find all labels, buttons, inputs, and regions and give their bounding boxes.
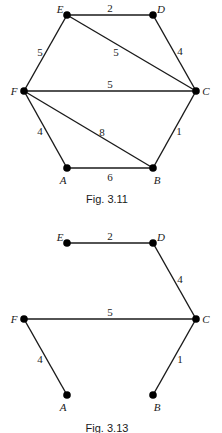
weight-e-d: 2 — [107, 2, 113, 14]
node-d — [149, 239, 157, 247]
label-b: B — [154, 401, 161, 413]
edge-f-a — [24, 319, 67, 395]
weight-e-f: 5 — [37, 46, 43, 58]
weight-b-c: 1 — [176, 125, 182, 137]
label-a: A — [59, 174, 67, 186]
figure-3-13: 2 4 5 4 1 E D F C A B Fig. 3.13 — [10, 230, 211, 433]
label-c: C — [202, 313, 210, 325]
label-a: A — [59, 401, 67, 413]
label-f: F — [10, 85, 18, 97]
edge-b-c — [153, 91, 196, 168]
edge-b-c — [153, 319, 196, 395]
node-e — [63, 11, 71, 19]
caption-fig-3-13: Fig. 3.13 — [86, 422, 129, 433]
weight-a-b: 6 — [107, 171, 113, 183]
weight-f-c: 5 — [107, 78, 113, 90]
node-a — [63, 391, 71, 399]
weight-e-d: 2 — [107, 230, 113, 242]
weight-d-c: 4 — [177, 45, 183, 57]
label-f: F — [10, 313, 18, 325]
graph-figures: 2 4 5 5 5 8 4 6 1 E D F C A B Fig. 3.11 … — [0, 0, 222, 433]
label-d: D — [156, 3, 165, 15]
node-f — [20, 87, 28, 95]
edge-d-c — [153, 15, 196, 91]
node-b — [149, 164, 157, 172]
edge-f-a — [24, 91, 67, 168]
node-c — [192, 315, 200, 323]
node-e — [63, 239, 71, 247]
label-c: C — [202, 85, 210, 97]
weight-f-a: 4 — [37, 353, 43, 365]
edge-f-b — [24, 91, 153, 168]
label-d: D — [156, 231, 165, 243]
caption-fig-3-11: Fig. 3.11 — [86, 193, 128, 205]
weight-f-c: 5 — [107, 306, 113, 318]
node-c — [192, 87, 200, 95]
node-d — [149, 11, 157, 19]
weight-f-a: 4 — [37, 125, 43, 137]
edge-e-f — [24, 15, 67, 91]
label-e: E — [56, 231, 64, 243]
weight-b-c: 1 — [177, 353, 183, 365]
node-f — [20, 315, 28, 323]
weight-e-c: 5 — [113, 46, 119, 58]
label-b: B — [154, 174, 161, 186]
edge-d-c — [153, 243, 196, 319]
node-b — [149, 391, 157, 399]
weight-f-b: 8 — [99, 126, 105, 138]
weight-d-c: 4 — [177, 273, 183, 285]
label-e: E — [56, 3, 64, 15]
figure-3-11: 2 4 5 5 5 8 4 6 1 E D F C A B Fig. 3.11 — [10, 2, 211, 205]
node-a — [63, 164, 71, 172]
